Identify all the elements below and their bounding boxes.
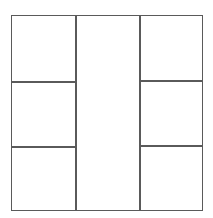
cell-left-middle bbox=[12, 82, 75, 146]
cell-left-top bbox=[12, 16, 75, 81]
cell-left-bottom bbox=[12, 147, 75, 210]
cell-right-middle bbox=[141, 81, 202, 145]
cell-center bbox=[77, 16, 139, 210]
cell-right-bottom bbox=[141, 146, 202, 210]
cell-right-top bbox=[141, 16, 202, 80]
